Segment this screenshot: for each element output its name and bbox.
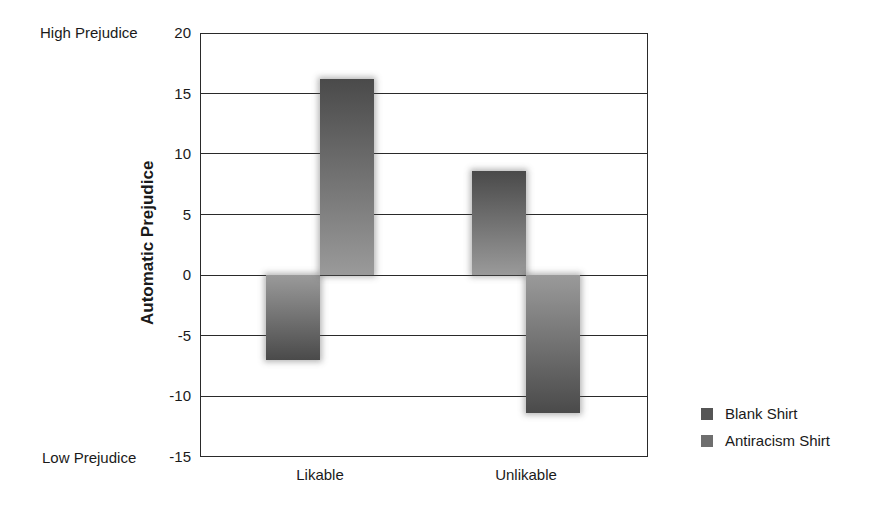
- bar-likable-blank-shirt: [266, 275, 320, 360]
- y-axis-label: Automatic Prejudice: [138, 165, 158, 325]
- x-category-label: Unlikable: [466, 466, 586, 483]
- y-tick-label: -10: [151, 387, 191, 405]
- y-tick-label: 10: [151, 145, 191, 163]
- legend-swatch-antiracism: [701, 435, 713, 447]
- gridline: [200, 93, 648, 94]
- x-category-label: Likable: [260, 466, 380, 483]
- low-prejudice-label: Low Prejudice: [42, 449, 136, 467]
- y-tick-label: 20: [151, 24, 191, 42]
- legend-item-blank-shirt: Blank Shirt: [701, 405, 798, 422]
- legend-item-antiracism-shirt: Antiracism Shirt: [701, 432, 830, 449]
- gridline: [200, 153, 648, 154]
- y-tick-label: -15: [151, 448, 191, 466]
- plot-area: [200, 33, 648, 457]
- high-prejudice-label: High Prejudice: [40, 24, 138, 42]
- legend-label-antiracism: Antiracism Shirt: [725, 432, 830, 449]
- y-tick-label: -5: [151, 327, 191, 345]
- gridline: [200, 214, 648, 215]
- bar-unlikable-blank-shirt: [472, 171, 526, 275]
- bar-likable-antiracism-shirt: [320, 79, 374, 275]
- bar-unlikable-antiracism-shirt: [526, 275, 580, 413]
- legend-swatch-blank: [701, 408, 713, 420]
- legend-label-blank: Blank Shirt: [725, 405, 798, 422]
- y-tick-label: 15: [151, 85, 191, 103]
- gridline: [200, 396, 648, 397]
